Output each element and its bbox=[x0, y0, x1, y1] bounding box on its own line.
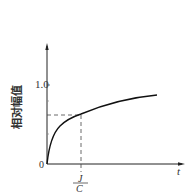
y-tick-label-1: 1.0 bbox=[35, 78, 49, 90]
origin-label: 0 bbox=[39, 159, 44, 170]
chart-root: 1.0 0 t J C 相对幅值 bbox=[0, 0, 196, 192]
x-axis-label: t bbox=[177, 165, 181, 177]
y-axis-arrow-icon bbox=[45, 43, 48, 50]
y-axis-label: 相对幅值 bbox=[10, 85, 24, 129]
fraction-denominator: C bbox=[76, 183, 83, 192]
data-curve bbox=[47, 95, 157, 164]
chart-svg: 1.0 0 t J C 相对幅值 bbox=[0, 0, 196, 192]
